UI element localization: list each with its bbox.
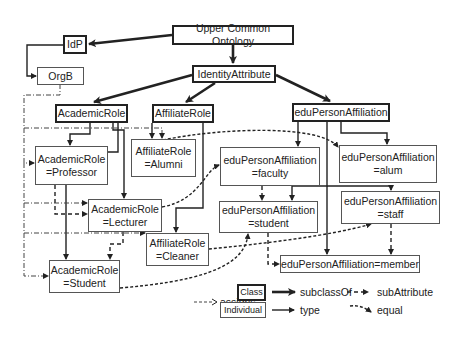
- node-line: =Professor: [46, 166, 97, 179]
- node-line: =alum: [374, 164, 403, 177]
- node-edu-faculty: eduPersonAffiliation =faculty: [220, 147, 320, 186]
- node-academic-student: AcademicRole =Student: [49, 260, 120, 293]
- legend-equal-label: equal: [377, 304, 403, 316]
- node-identity-attribute: IdentityAttribute: [192, 65, 276, 83]
- node-line: =Student: [63, 277, 105, 290]
- node-line: eduPersonAffiliation: [341, 151, 434, 164]
- node-affiliate-alumni: AffiliateRole =Alumni: [131, 139, 196, 177]
- legend-class-box: Class: [237, 284, 266, 301]
- node-edu-student: eduPersonAffiliation =student: [219, 201, 318, 233]
- node-edu-alum: eduPersonAffiliation =alum: [339, 145, 437, 183]
- node-academic-lecturer: AcademicRole =Lecturer: [88, 199, 162, 232]
- node-line: eduPersonAffiliation: [223, 154, 316, 167]
- legend-individual-box: Individual: [220, 302, 266, 318]
- node-line: =Cleaner: [156, 250, 199, 263]
- legend-type-label: type: [300, 304, 320, 316]
- node-academic-role: AcademicRole: [55, 104, 128, 123]
- node-line: AcademicRole: [38, 153, 106, 166]
- node-edu-person-affiliation: eduPersonAffiliation: [292, 103, 390, 122]
- node-line: eduPersonAffiliation: [222, 204, 315, 217]
- node-line: AcademicRole: [51, 264, 119, 277]
- node-line: =faculty: [252, 167, 288, 180]
- node-line: =Lecturer: [103, 216, 148, 229]
- node-line: AcademicRole: [91, 203, 159, 216]
- legend-subclassof-label: subclassOf: [300, 286, 352, 298]
- node-line: AffiliateRole: [150, 237, 206, 250]
- node-affiliate-role: AffiliateRole: [152, 104, 214, 123]
- node-orgb: OrgB: [37, 67, 84, 85]
- legend-subattribute-label: subAttribute: [377, 286, 433, 298]
- node-upper-common-ontology: Upper Common Ontology: [172, 25, 294, 45]
- node-line: =staff: [378, 208, 404, 221]
- node-line: AffiliateRole: [136, 145, 192, 158]
- node-edu-staff: eduPersonAffiliation =staff: [341, 191, 440, 224]
- node-idp: IdP: [63, 35, 87, 54]
- node-academic-professor: AcademicRole =Professor: [35, 146, 108, 185]
- node-line: eduPersonAffiliation: [344, 195, 437, 208]
- node-line: =Alumni: [144, 158, 182, 171]
- node-affiliate-cleaner: AffiliateRole =Cleaner: [146, 233, 209, 266]
- node-line: =student: [248, 217, 289, 230]
- node-edu-member: eduPersonAffiliation=member: [280, 255, 420, 273]
